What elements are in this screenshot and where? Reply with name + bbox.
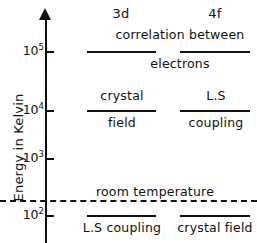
y-tick-mark-1e3	[46, 158, 54, 160]
y-tick-label-1e3-exponent: 3	[39, 149, 44, 159]
level-correlation-text-above: correlation between	[105, 29, 255, 42]
level-4f-ls-coupling-text-below: coupling	[180, 117, 252, 130]
y-tick-label-1e3: 103	[23, 152, 44, 165]
y-tick-mark-1e5	[46, 51, 54, 53]
level-3d-ls-coupling-text-below: L.S coupling	[80, 222, 164, 235]
level-bar-3d-crystal-field	[87, 110, 156, 112]
y-tick-label-1e5-exponent: 5	[39, 42, 44, 52]
y-tick-label-1e4-mantissa: 10	[23, 102, 39, 117]
y-axis-label: Energy in Kelvin	[11, 68, 26, 228]
level-bar-4f-correlation	[180, 51, 250, 53]
y-tick-label-1e2-mantissa: 10	[23, 207, 39, 222]
energy-scale-diagram: Energy in Kelvin 105 104 103 102 3d 4f c…	[0, 0, 257, 243]
y-tick-label-1e2: 102	[23, 209, 44, 222]
column-header-4f: 4f	[190, 6, 240, 21]
room-temperature-label: room temperature	[90, 186, 220, 199]
y-tick-label-1e2-exponent: 2	[39, 206, 44, 216]
y-axis-arrow-icon	[39, 8, 51, 20]
y-tick-label-1e5-mantissa: 10	[23, 43, 39, 58]
level-bar-4f-crystal-field	[180, 215, 250, 217]
y-tick-mark-1e2	[46, 215, 54, 217]
y-tick-label-1e4-exponent: 4	[39, 101, 44, 111]
level-4f-ls-coupling-text-above: L.S	[180, 90, 252, 103]
level-correlation-text-below: electrons	[105, 58, 255, 71]
level-bar-3d-correlation	[87, 51, 156, 53]
level-3d-crystal-field-text-above: crystal	[86, 90, 158, 103]
level-bar-4f-ls-coupling	[180, 110, 250, 112]
column-header-3d: 3d	[96, 6, 146, 21]
level-4f-crystal-field-text-below: crystal field	[173, 222, 257, 235]
y-tick-label-1e5: 105	[23, 45, 44, 58]
room-temperature-dashed-line	[0, 200, 257, 202]
level-3d-crystal-field-text-below: field	[86, 117, 158, 130]
y-tick-label-1e4: 104	[23, 104, 44, 117]
y-tick-label-1e3-mantissa: 10	[23, 150, 39, 165]
y-tick-mark-1e4	[46, 110, 54, 112]
level-bar-3d-ls-coupling	[87, 215, 156, 217]
